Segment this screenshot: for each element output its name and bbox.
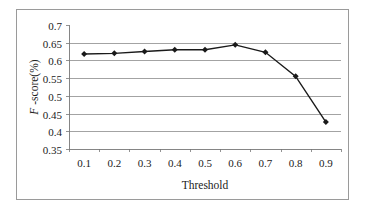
data-point-marker	[111, 50, 117, 56]
data-point-marker	[232, 42, 238, 48]
series-line	[84, 45, 326, 122]
y-axis-title-rest: -score(%)	[28, 59, 41, 107]
y-tick-labels: 0.350.40.450.50.550.60.650.7	[43, 20, 63, 156]
data-point-marker	[202, 47, 208, 53]
y-tick-label: 0.6	[48, 55, 62, 67]
x-tick-label: 0.7	[259, 157, 273, 169]
line-chart: 0.350.40.450.50.550.60.650.7 0.10.20.30.…	[0, 0, 365, 216]
y-tick-label: 0.5	[48, 91, 62, 103]
x-tick-label: 0.8	[289, 157, 303, 169]
y-tick-label: 0.35	[43, 144, 63, 156]
x-tick-labels: 0.10.20.30.40.50.60.70.80.9	[77, 157, 333, 169]
x-tick-label: 0.9	[319, 157, 333, 169]
y-tick-label: 0.45	[43, 109, 63, 121]
x-tick-label: 0.6	[228, 157, 242, 169]
y-tick-label: 0.4	[48, 126, 62, 138]
x-tick-label: 0.1	[77, 157, 91, 169]
data-point-marker	[81, 51, 87, 57]
y-tick-label: 0.65	[43, 38, 63, 50]
x-tick-label: 0.4	[168, 157, 182, 169]
x-tick-label: 0.2	[107, 157, 121, 169]
data-series	[81, 42, 329, 125]
y-tick-label: 0.55	[43, 73, 63, 85]
y-axis-title: F -score(%)	[28, 59, 41, 115]
x-tick-label: 0.3	[138, 157, 152, 169]
y-tick-label: 0.7	[48, 20, 62, 32]
data-point-marker	[172, 47, 178, 53]
axes	[66, 25, 342, 152]
x-tick-label: 0.5	[198, 157, 212, 169]
data-point-marker	[142, 49, 148, 55]
gridlines	[69, 44, 341, 132]
x-axis-title: Threshold	[182, 179, 229, 191]
